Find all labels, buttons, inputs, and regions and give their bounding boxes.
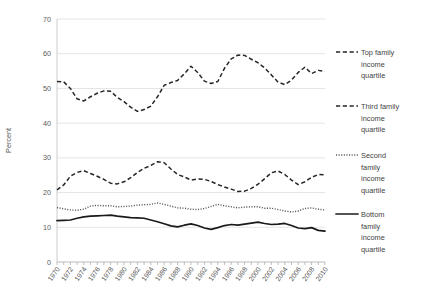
legend-item-2[interactable]: Third familyincomequartile [336, 102, 399, 134]
legend-label: Bottom [361, 210, 384, 219]
legend-label: income [361, 60, 385, 69]
x-tick-label: 1982 [127, 265, 142, 282]
chart-container: 0102030405060701970197219741976197819801… [0, 0, 421, 293]
y-tick-label: 20 [43, 188, 51, 197]
legend-label: income [361, 174, 385, 183]
y-tick-label: 40 [43, 119, 51, 128]
x-tick-label: 1970 [46, 265, 61, 282]
x-tick-label: 1996 [221, 265, 236, 282]
legend-label: quartile [361, 71, 385, 80]
x-tick-label: 1976 [87, 265, 102, 282]
x-tick-label: 2010 [314, 265, 329, 282]
x-tick-label: 1978 [100, 265, 115, 282]
x-tick-label: 2006 [288, 265, 303, 282]
legend-item-1[interactable]: Top familyincomequartile [336, 48, 395, 80]
y-tick-label: 0 [47, 258, 51, 267]
x-tick-label: 2002 [261, 265, 276, 282]
x-tick-label: 1980 [113, 265, 128, 282]
y-tick-label: 10 [43, 223, 51, 232]
legend-label: Third family [361, 102, 399, 111]
legend-item-3[interactable]: Secondfamilyincomequartile [336, 151, 386, 195]
x-tick-label: 1994 [207, 265, 222, 282]
line-chart: 0102030405060701970197219741976197819801… [0, 0, 421, 293]
x-tick-label: 1972 [60, 265, 75, 282]
y-tick-label: 30 [43, 153, 51, 162]
x-tick-label: 1998 [234, 265, 249, 282]
series-line-3 [57, 203, 325, 212]
legend-label: Top family [361, 48, 395, 57]
x-tick-label: 2000 [247, 265, 262, 282]
legend-label: quartile [361, 245, 385, 254]
series-line-2 [57, 162, 325, 192]
x-tick-label: 1988 [167, 265, 182, 282]
x-tick-label: 1990 [180, 265, 195, 282]
legend-label: income [361, 114, 385, 123]
legend-label: Second [361, 151, 386, 160]
x-tick-label: 2004 [274, 265, 289, 282]
legend-label: family [361, 222, 381, 231]
series-line-4 [57, 215, 325, 231]
legend-label: income [361, 233, 385, 242]
y-tick-label: 50 [43, 84, 51, 93]
legend-label: family [361, 163, 381, 172]
legend-item-4[interactable]: Bottomfamilyincomequartile [336, 210, 385, 254]
x-tick-label: 1974 [73, 265, 88, 282]
legend-label: quartile [361, 125, 385, 134]
x-tick-label: 1986 [154, 265, 169, 282]
y-tick-label: 70 [43, 15, 51, 24]
x-tick-label: 1992 [194, 265, 209, 282]
legend-label: quartile [361, 186, 385, 195]
y-tick-label: 60 [43, 49, 51, 58]
x-tick-label: 1984 [140, 265, 155, 282]
x-tick-label: 2008 [301, 265, 316, 282]
y-axis-title: Percent [4, 128, 13, 153]
series-line-1 [57, 55, 325, 111]
